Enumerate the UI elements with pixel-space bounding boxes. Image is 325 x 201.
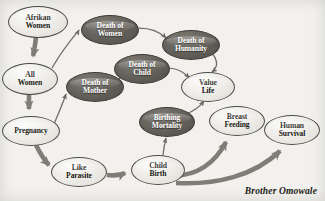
- node-label: Pregnancy: [13, 127, 49, 135]
- edge-pregnancy-to-death-of-mother: [54, 94, 66, 124]
- node-value-life[interactable]: Value Life: [181, 72, 235, 102]
- node-label: Birthing Mortality: [151, 114, 183, 129]
- node-label: Death of Humanity: [174, 37, 208, 52]
- node-breast-feeding[interactable]: Breast Feeding: [209, 106, 265, 136]
- node-label: Child Birth: [148, 162, 168, 177]
- node-afrikan-women[interactable]: Afrikan Women: [8, 6, 68, 38]
- node-label: Death of Mother: [81, 79, 110, 94]
- edge-death-of-humanity-to-value-life: [212, 53, 217, 72]
- node-label: Like Parasite: [65, 164, 93, 179]
- node-like-parasite[interactable]: Like Parasite: [51, 157, 107, 187]
- node-death-of-child[interactable]: Death of Child: [114, 54, 170, 84]
- node-label: Human Survival: [278, 122, 307, 137]
- node-label: All Women: [17, 71, 43, 86]
- node-human-survival[interactable]: Human Survival: [264, 115, 320, 145]
- node-child-birth[interactable]: Child Birth: [131, 155, 185, 185]
- diagram-canvas: Afrikan Women All Women Pregnancy Like P…: [0, 0, 325, 201]
- edge-all-women-to-death-of-women: [52, 30, 79, 68]
- node-all-women[interactable]: All Women: [2, 63, 58, 95]
- node-pregnancy[interactable]: Pregnancy: [2, 116, 60, 146]
- node-death-of-mother[interactable]: Death of Mother: [66, 72, 124, 102]
- edge-afrikan-women-to-all-women: [33, 37, 36, 56]
- edge-child-birth-to-human-survival: [176, 151, 280, 183]
- node-label: Breast Feeding: [223, 113, 250, 128]
- node-label: Value Life: [198, 79, 218, 94]
- edge-child-birth-to-birthing-mortality: [163, 138, 166, 155]
- node-birthing-mortality[interactable]: Birthing Mortality: [139, 107, 195, 137]
- node-label: Death of Child: [128, 61, 157, 76]
- node-death-of-humanity[interactable]: Death of Humanity: [162, 30, 220, 60]
- author-signature: Brother Omowale: [245, 186, 317, 196]
- node-death-of-women[interactable]: Death of Women: [81, 15, 139, 45]
- edge-like-parasite-to-child-birth: [107, 173, 125, 175]
- edge-death-of-child-to-value-life: [169, 68, 189, 78]
- node-label: Death of Women: [96, 22, 125, 37]
- edge-death-of-women-to-death-of-humanity: [139, 28, 166, 38]
- edge-pregnancy-to-like-parasite: [36, 145, 49, 165]
- node-label: Afrikan Women: [24, 14, 51, 29]
